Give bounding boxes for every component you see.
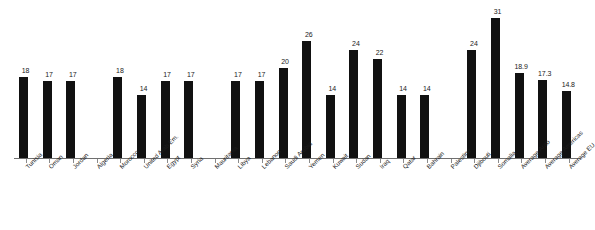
bar[interactable] bbox=[113, 77, 122, 158]
bar-value-label: 20 bbox=[274, 58, 297, 66]
bar-value-label: 24 bbox=[344, 40, 367, 48]
bar-value-label: 17 bbox=[61, 71, 84, 79]
bar-slot bbox=[85, 8, 108, 158]
bar[interactable] bbox=[279, 68, 288, 158]
bar-slot: 17.3 bbox=[533, 8, 556, 158]
bar-slot: 26 bbox=[297, 8, 320, 158]
bar-slot: 22 bbox=[368, 8, 391, 158]
bar-value-label: 14 bbox=[415, 85, 438, 93]
bar-slot: 18 bbox=[108, 8, 131, 158]
bar-value-label: 17 bbox=[179, 71, 202, 79]
bar-slot: 17 bbox=[226, 8, 249, 158]
bar-slot: 24 bbox=[344, 8, 367, 158]
bar-slot: 24 bbox=[462, 8, 485, 158]
bar-value-label: 31 bbox=[486, 8, 509, 16]
bar-slot: 14 bbox=[132, 8, 155, 158]
bar-slot: 31 bbox=[486, 8, 509, 158]
bar[interactable] bbox=[491, 18, 500, 158]
bar-value-label: 18.9 bbox=[510, 63, 533, 71]
bar-value-label: 14 bbox=[321, 85, 344, 93]
bar-value-label: 17 bbox=[226, 71, 249, 79]
bar-value-label: 14.8 bbox=[557, 81, 580, 89]
bar[interactable] bbox=[184, 81, 193, 158]
bar[interactable] bbox=[467, 50, 476, 158]
bar-slot: 14 bbox=[321, 8, 344, 158]
bar[interactable] bbox=[373, 59, 382, 158]
bar-value-label: 17 bbox=[250, 71, 273, 79]
bar-value-label: 14 bbox=[392, 85, 415, 93]
bar-value-label: 14 bbox=[132, 85, 155, 93]
plot-area: 18171718141717171720261424221414243118.9… bbox=[14, 8, 581, 158]
bar-chart: 18171718141717171720261424221414243118.9… bbox=[0, 0, 595, 230]
bar-slot: 18.9 bbox=[510, 8, 533, 158]
bar[interactable] bbox=[137, 95, 146, 158]
bar-slot: 14 bbox=[415, 8, 438, 158]
bar-slot: 17 bbox=[38, 8, 61, 158]
bar-slot bbox=[203, 8, 226, 158]
bar-slot: 20 bbox=[274, 8, 297, 158]
bar[interactable] bbox=[420, 95, 429, 158]
bar-slot bbox=[439, 8, 462, 158]
bar-value-label: 18 bbox=[108, 67, 131, 75]
bar[interactable] bbox=[349, 50, 358, 158]
bar-value-label: 22 bbox=[368, 49, 391, 57]
bar[interactable] bbox=[515, 73, 524, 158]
bar-value-label: 17.3 bbox=[533, 70, 556, 78]
bar[interactable] bbox=[66, 81, 75, 158]
bar[interactable] bbox=[255, 81, 264, 158]
bar-slot: 14 bbox=[392, 8, 415, 158]
bar-slot: 17 bbox=[179, 8, 202, 158]
bar-slot: 18 bbox=[14, 8, 37, 158]
bar[interactable] bbox=[19, 77, 28, 158]
bar-value-label: 26 bbox=[297, 31, 320, 39]
bar-value-label: 18 bbox=[14, 67, 37, 75]
bar[interactable] bbox=[326, 95, 335, 158]
bar-value-label: 24 bbox=[462, 40, 485, 48]
bar[interactable] bbox=[43, 81, 52, 158]
bar-value-label: 17 bbox=[38, 71, 61, 79]
bar-slot: 17 bbox=[250, 8, 273, 158]
bar-slot: 17 bbox=[61, 8, 84, 158]
bar-value-label: 17 bbox=[156, 71, 179, 79]
bar[interactable] bbox=[397, 95, 406, 158]
